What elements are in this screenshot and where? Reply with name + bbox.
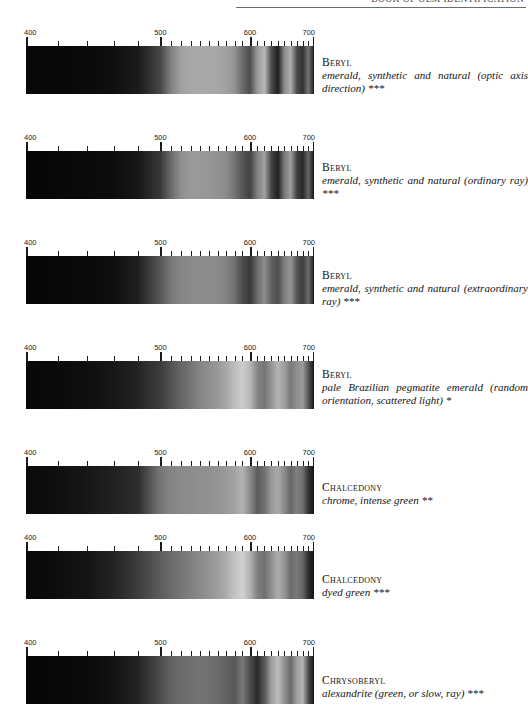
axis-tick-major	[160, 142, 162, 151]
spectrum-caption: Berylemerald, synthetic and natural (opt…	[322, 56, 528, 94]
axis-tick-label: 700	[302, 534, 315, 542]
axis-tick-major	[250, 142, 252, 151]
spectrum-gradient	[26, 256, 314, 304]
axis-tick-major	[313, 542, 315, 551]
axis-tick-label: 500	[154, 29, 167, 37]
axis-tick-major	[250, 352, 252, 361]
axis-tick-major	[250, 457, 252, 466]
spectrum-gradient	[26, 361, 314, 409]
axis-tick-major	[160, 542, 162, 551]
axis-tick-major	[160, 457, 162, 466]
spectrum-gradient	[26, 151, 314, 199]
axis-tick-label: 400	[24, 639, 37, 647]
mineral-name: Beryl	[322, 161, 528, 174]
axis-tick-major	[26, 352, 28, 361]
wavelength-axis: 400500600700	[26, 446, 314, 466]
axis-tick-major	[160, 37, 162, 46]
spectrum-gradient	[26, 656, 314, 704]
header-rule	[236, 7, 526, 8]
axis-tick-label: 400	[24, 29, 37, 37]
axis-tick-major	[26, 142, 28, 151]
axis-tick-major	[313, 37, 315, 46]
spectrum-caption: Berylemerald, synthetic and natural (ord…	[322, 161, 528, 199]
axis-tick-label: 700	[302, 344, 315, 352]
mineral-name: Chalcedony	[322, 573, 528, 586]
spectrum-band	[26, 256, 314, 304]
spectrum-caption: Chrysoberylalexandrite (green, or slow, …	[322, 674, 528, 700]
axis-tick-major	[250, 37, 252, 46]
axis-tick-major	[26, 542, 28, 551]
axis-tick-major	[160, 647, 162, 656]
axis-tick-label: 400	[24, 239, 37, 247]
axis-tick-label: 500	[154, 134, 167, 142]
axis-tick-major	[250, 542, 252, 551]
axis-tick-label: 600	[244, 134, 257, 142]
mineral-name: Beryl	[322, 269, 528, 282]
mineral-name: Beryl	[322, 368, 528, 381]
spectrum-band	[26, 46, 314, 94]
axis-tick-major	[26, 247, 28, 256]
mineral-name: Beryl	[322, 56, 528, 69]
spectrum-caption: Chalcedonychrome, intense green **	[322, 481, 528, 507]
spectrum-band	[26, 151, 314, 199]
wavelength-axis: 400500600700	[26, 26, 314, 46]
axis-tick-label: 600	[244, 29, 257, 37]
axis-tick-label: 600	[244, 534, 257, 542]
wavelength-axis: 400500600700	[26, 341, 314, 361]
mineral-description: emerald, synthetic and natural (extraord…	[322, 282, 528, 307]
mineral-description: alexandrite (green, or slow, ray) ***	[322, 687, 528, 700]
mineral-description: emerald, synthetic and natural (optic ax…	[322, 69, 528, 94]
axis-tick-label: 400	[24, 134, 37, 142]
axis-tick-label: 400	[24, 344, 37, 352]
axis-tick-label: 700	[302, 134, 315, 142]
axis-tick-major	[313, 247, 315, 256]
axis-tick-major	[160, 352, 162, 361]
spectrum-caption: Berylemerald, synthetic and natural (ext…	[322, 269, 528, 307]
mineral-description: dyed green ***	[322, 586, 528, 599]
spectrum-gradient	[26, 46, 314, 94]
axis-tick-label: 500	[154, 239, 167, 247]
spectrum-band	[26, 656, 314, 704]
wavelength-axis: 400500600700	[26, 236, 314, 256]
spectrum-caption: Berylpale Brazilian pegmatite emerald (r…	[322, 368, 528, 406]
axis-tick-major	[250, 247, 252, 256]
mineral-description: emerald, synthetic and natural (ordinary…	[322, 174, 528, 199]
axis-tick-label: 400	[24, 534, 37, 542]
axis-tick-label: 600	[244, 639, 257, 647]
spectrum-gradient	[26, 551, 314, 599]
axis-tick-label: 600	[244, 239, 257, 247]
wavelength-axis: 400500600700	[26, 636, 314, 656]
mineral-description: chrome, intense green **	[322, 494, 528, 507]
axis-tick-label: 700	[302, 239, 315, 247]
axis-tick-major	[26, 647, 28, 656]
axis-tick-major	[26, 37, 28, 46]
axis-tick-major	[160, 247, 162, 256]
mineral-description: pale Brazilian pegmatite emerald (random…	[322, 381, 528, 406]
axis-tick-major	[250, 647, 252, 656]
page-running-header: BOOK OF GEM IDENTIFICATION	[0, 0, 528, 12]
running-head-text: BOOK OF GEM IDENTIFICATION	[371, 0, 524, 4]
axis-tick-label: 700	[302, 29, 315, 37]
wavelength-axis: 400500600700	[26, 531, 314, 551]
axis-tick-label: 500	[154, 344, 167, 352]
axis-tick-label: 400	[24, 449, 37, 457]
mineral-name: Chalcedony	[322, 481, 528, 494]
axis-tick-major	[313, 457, 315, 466]
wavelength-axis: 400500600700	[26, 131, 314, 151]
spectrum-gradient	[26, 466, 314, 514]
mineral-name: Chrysoberyl	[322, 674, 528, 687]
axis-tick-label: 700	[302, 639, 315, 647]
axis-tick-label: 600	[244, 449, 257, 457]
axis-tick-major	[26, 457, 28, 466]
axis-tick-major	[313, 352, 315, 361]
axis-tick-major	[313, 142, 315, 151]
spectrum-caption: Chalcedonydyed green ***	[322, 573, 528, 599]
axis-tick-major	[313, 647, 315, 656]
axis-tick-label: 500	[154, 534, 167, 542]
axis-tick-label: 700	[302, 449, 315, 457]
axis-tick-label: 500	[154, 639, 167, 647]
axis-tick-label: 600	[244, 344, 257, 352]
spectrum-band	[26, 361, 314, 409]
axis-tick-label: 500	[154, 449, 167, 457]
spectrum-band	[26, 551, 314, 599]
